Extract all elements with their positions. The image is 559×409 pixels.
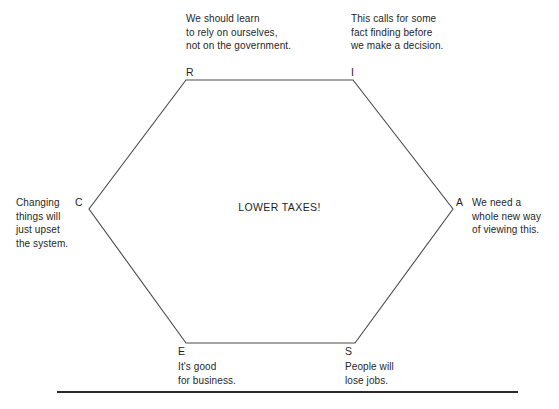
- vertex-label-a: A: [456, 196, 463, 210]
- note-r-rely: We should learn to rely on ourselves, no…: [186, 12, 291, 53]
- vertex-label-s: S: [345, 345, 352, 359]
- note-e-benefits: It's good for business.: [178, 360, 236, 387]
- vertex-label-r: R: [186, 66, 194, 80]
- vertex-label-c: C: [75, 196, 83, 210]
- diagram-page: LOWER TAXES! We should learn to rely on …: [0, 0, 559, 409]
- note-c-caution: Changing things will just upset the syst…: [16, 196, 68, 250]
- note-i-information: This calls for some fact finding before …: [351, 12, 444, 53]
- note-s-drawbacks: People will lose jobs.: [345, 360, 394, 387]
- vertex-label-e: E: [178, 345, 185, 359]
- vertex-label-i: I: [351, 66, 354, 80]
- bottom-rule-divider: [57, 391, 518, 393]
- note-a-alternatives: We need a whole new way of viewing this.: [472, 196, 541, 237]
